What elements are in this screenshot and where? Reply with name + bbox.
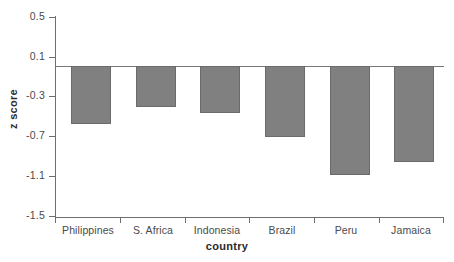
y-tick-4 xyxy=(49,176,55,177)
x-tick-label-s-africa: S. Africa xyxy=(133,224,173,236)
x-tick-label-brazil: Brazil xyxy=(269,224,296,236)
x-tick-2 xyxy=(185,217,186,223)
y-axis-line xyxy=(55,16,56,218)
x-tick-label-philippines: Philippines xyxy=(62,224,114,236)
bar-indonesia[interactable] xyxy=(200,66,240,113)
x-tick-0 xyxy=(55,217,56,223)
x-tick-4 xyxy=(314,217,315,223)
bar-chart-figure: z score 0.5 0.1 -0.3 -0.7 -1.1 -1.5 Phil… xyxy=(0,0,454,262)
x-axis-title: country xyxy=(0,240,454,252)
y-tick-label-1: 0.1 xyxy=(5,50,45,62)
x-tick-5 xyxy=(379,217,380,223)
y-tick-label-3: -0.7 xyxy=(5,129,45,141)
y-tick-label-0: 0.5 xyxy=(5,10,45,22)
x-tick-1 xyxy=(120,217,121,223)
x-tick-label-jamaica: Jamaica xyxy=(391,224,431,236)
bar-philippines[interactable] xyxy=(71,66,111,124)
y-tick-label-5: -1.5 xyxy=(5,209,45,221)
zero-reference-line xyxy=(55,66,444,67)
x-tick-label-peru: Peru xyxy=(335,224,358,236)
y-tick-2 xyxy=(49,96,55,97)
y-tick-0 xyxy=(49,17,55,18)
x-tick-3 xyxy=(249,217,250,223)
y-tick-label-4: -1.1 xyxy=(5,169,45,181)
y-tick-1 xyxy=(49,57,55,58)
y-tick-3 xyxy=(49,136,55,137)
x-tick-label-indonesia: Indonesia xyxy=(194,224,240,236)
bar-brazil[interactable] xyxy=(265,66,305,137)
y-tick-label-2: -0.3 xyxy=(5,89,45,101)
bar-s-africa[interactable] xyxy=(136,66,176,107)
bar-peru[interactable] xyxy=(330,66,370,175)
x-tick-6 xyxy=(443,217,444,223)
bar-jamaica[interactable] xyxy=(394,66,434,162)
